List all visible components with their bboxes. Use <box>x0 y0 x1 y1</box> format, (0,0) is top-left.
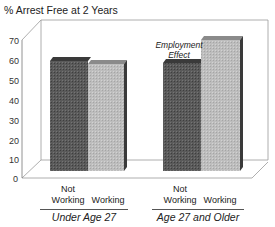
svg-text:40: 40 <box>9 96 19 106</box>
bar-under27-not-working <box>50 57 91 171</box>
xlabel-27plus-not-working: Not Working <box>158 184 202 206</box>
bar-27plus-not-working <box>163 59 204 171</box>
svg-text:0: 0 <box>13 174 18 184</box>
svg-text:60: 60 <box>9 56 19 66</box>
chart-plot: 70 60 50 40 30 20 10 0 <box>0 0 275 227</box>
group-rule-under27 <box>40 209 128 210</box>
svg-text:70: 70 <box>9 36 19 46</box>
group-rule-27plus <box>152 209 244 210</box>
svg-text:10: 10 <box>9 155 19 165</box>
annotation-employment-effect: Employment Effect <box>148 40 210 60</box>
group-label-under27: Under Age 27 <box>36 211 132 223</box>
bar-under27-working <box>88 60 127 171</box>
svg-text:30: 30 <box>9 116 19 126</box>
xlabel-under27-not-working: Not Working <box>46 184 90 206</box>
svg-text:50: 50 <box>9 76 19 86</box>
group-label-27plus: Age 27 and Older <box>146 211 250 223</box>
xlabel-27plus-working: Working <box>198 195 242 206</box>
svg-text:20: 20 <box>9 136 19 146</box>
y-axis-ticks: 70 60 50 40 30 20 10 0 <box>9 36 19 184</box>
xlabel-under27-working: Working <box>86 195 130 206</box>
